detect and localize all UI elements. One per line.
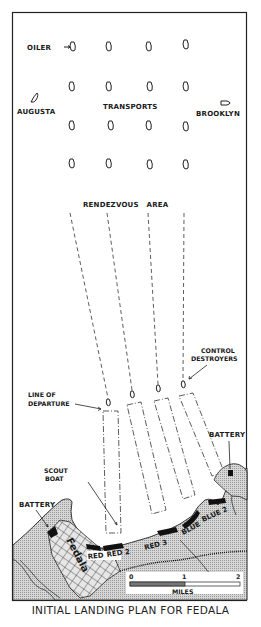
east-battery-icon — [228, 470, 233, 476]
control-destroyers-pointer — [189, 365, 207, 379]
line-of-departure-label-1: LINE OF — [28, 391, 56, 398]
rendezvous-area-label: RENDEZVOUS AREA — [83, 201, 169, 209]
east-headland — [214, 464, 247, 500]
control-destroyers-label-2: DESTROYERS — [191, 355, 238, 362]
transports-label: TRANSPORTS — [103, 103, 157, 111]
augusta-label: AUGUSTA — [17, 108, 56, 116]
scale-bar: 0 1 2 MILES — [126, 572, 243, 595]
scale-tick-2: 2 — [236, 573, 240, 580]
scale-unit-label: MILES — [172, 588, 194, 595]
scale-tick-1: 1 — [182, 573, 186, 580]
beach-red-label: RED — [87, 551, 104, 561]
west-battery-label: BATTERY — [19, 501, 56, 509]
oiler-arrow-icon — [64, 46, 70, 49]
augusta-ship-icon — [31, 93, 38, 102]
east-battery-label: BATTERY — [209, 431, 246, 439]
approach-lanes — [70, 213, 184, 398]
brooklyn-ship-icon — [221, 101, 230, 105]
brooklyn-label: BROOKLYN — [196, 110, 240, 118]
line-of-departure-pointer — [75, 404, 101, 411]
line-of-departure-label-2: DEPARTURE — [28, 400, 70, 407]
control-destroyers — [106, 381, 185, 406]
scout-boat-label-2: BOAT — [45, 475, 64, 482]
scout-boat-label-1: SCOUT — [44, 467, 69, 474]
scale-tick-0: 0 — [129, 573, 134, 580]
map-title: INITIAL LANDING PLAN FOR FEDALA — [0, 604, 261, 616]
control-destroyers-label-1: CONTROL — [201, 347, 235, 354]
oiler-label: OILER — [27, 44, 52, 52]
scout-boat-pointer — [88, 482, 117, 525]
landing-plan-map: OILER AUGUSTA TRANSPORTS BROOKLYN RENDEZ… — [0, 0, 261, 627]
